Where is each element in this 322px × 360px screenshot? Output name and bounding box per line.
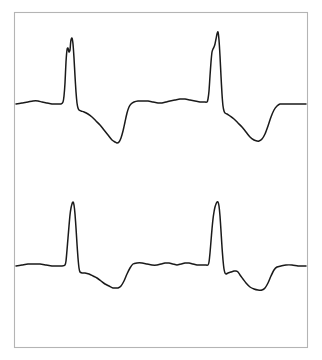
ecg-figure [0, 0, 322, 360]
ecg-plot-canvas [0, 0, 322, 360]
plot-background [0, 0, 322, 360]
